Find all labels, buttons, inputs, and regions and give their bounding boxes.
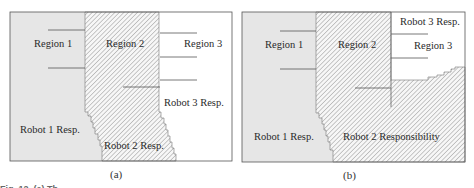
panel-a-region2-label: Region 2	[106, 38, 144, 49]
panel-b-region3-label: Region 3	[414, 40, 452, 51]
panel-a: Region 1 Region 2 Region 3 Robot 3 Resp.…	[10, 12, 232, 181]
panel-b: Robot 3 Resp. Region 1 Region 2 Region 3…	[242, 12, 465, 182]
panel-b-caption: (b)	[343, 169, 356, 182]
figure-caption: Fig. 12. (a) Th	[0, 184, 58, 188]
panel-a-region3-label: Region 3	[184, 38, 222, 49]
panel-b-robot1-label: Robot 1 Resp.	[254, 131, 314, 142]
panel-a-region1-label: Region 1	[34, 38, 72, 49]
panel-a-robot1-label: Robot 1 Resp.	[20, 124, 80, 135]
panel-b-robot2-label: Robot 2 Responsibility	[343, 131, 441, 142]
panel-a-robot2-label: Robot 2 Resp.	[104, 140, 164, 151]
panel-b-robot3-label: Robot 3 Resp.	[400, 16, 460, 27]
panel-a-caption: (a)	[110, 168, 123, 181]
diagram-canvas: Region 1 Region 2 Region 3 Robot 3 Resp.…	[0, 0, 474, 188]
panel-b-region2-label: Region 2	[338, 39, 376, 50]
panel-b-region1-label: Region 1	[265, 39, 303, 50]
panel-a-robot3-label: Robot 3 Resp.	[164, 97, 224, 108]
